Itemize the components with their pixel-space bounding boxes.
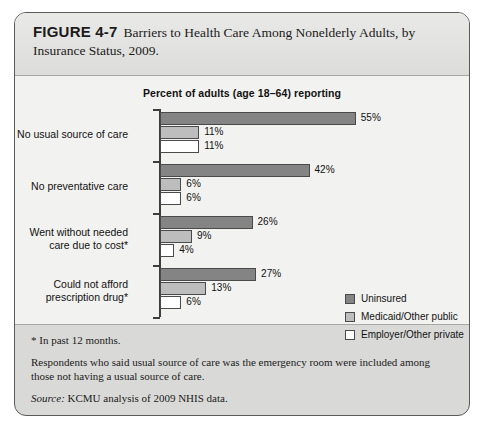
bar-value-label: 26%	[258, 216, 278, 227]
bar	[160, 178, 181, 191]
note-source: Source: KCMU analysis of 2009 NHIS data.	[31, 391, 453, 405]
legend-swatch-icon-uninsured	[345, 294, 355, 304]
category-label: Went without neededcare due to cost*	[14, 226, 128, 252]
figure-card: FIGURE 4-7Barriers to Health Care Among …	[14, 12, 470, 416]
bar-value-label: 9%	[197, 230, 211, 241]
category-label: Could not affordprescription drug*	[14, 278, 128, 304]
chart-title: Percent of adults (age 18–64) reporting	[15, 87, 469, 99]
legend-label-uninsured: Uninsured	[361, 293, 407, 304]
legend-item-uninsured: Uninsured	[345, 293, 464, 304]
chart-panel: Percent of adults (age 18–64) reporting …	[15, 75, 469, 325]
plot-area: No usual source of care55%11%11%No preve…	[15, 107, 469, 324]
figure-caption: FIGURE 4-7Barriers to Health Care Among …	[33, 23, 451, 60]
bar-value-label: 4%	[179, 244, 193, 255]
legend-swatch-icon-medicaid-other-public	[345, 312, 355, 322]
bar	[160, 192, 181, 205]
axis-tick	[153, 213, 160, 215]
category-label: No usual source of care	[14, 128, 128, 141]
bar-group: No preventative care42%6%6%	[15, 161, 469, 213]
legend-label-medicaid-other-public: Medicaid/Other public	[361, 311, 458, 322]
bar-value-label: 42%	[315, 164, 335, 175]
bar	[160, 230, 192, 243]
bar-value-label: 6%	[186, 296, 200, 307]
figure-number: FIGURE 4-7	[33, 23, 118, 40]
bar-value-label: 13%	[211, 282, 231, 293]
axis-tick	[153, 109, 160, 111]
note-footnote: * In past 12 months.	[31, 333, 453, 347]
bar-value-label: 27%	[261, 268, 281, 279]
bar-value-label: 11%	[204, 126, 223, 137]
bar-value-label: 6%	[186, 192, 200, 203]
bar	[160, 282, 206, 295]
bar	[160, 126, 199, 139]
note-source-text: KCMU analysis of 2009 NHIS data.	[68, 392, 228, 404]
bar	[160, 112, 356, 125]
figure-header: FIGURE 4-7Barriers to Health Care Among …	[15, 13, 469, 75]
bar	[160, 268, 256, 281]
bar-value-label: 6%	[186, 178, 200, 189]
bar-group: Went without neededcare due to cost*26%9…	[15, 213, 469, 265]
axis-tick	[153, 317, 160, 319]
note-source-label: Source:	[31, 392, 65, 404]
bar-value-label: 11%	[204, 140, 223, 151]
axis-tick	[153, 161, 160, 163]
figure-notes: * In past 12 months. Respondents who sai…	[15, 324, 469, 415]
bar	[160, 140, 199, 153]
bar-group: No usual source of care55%11%11%	[15, 109, 469, 161]
bar	[160, 164, 310, 177]
legend-item-medicaid-other-public: Medicaid/Other public	[345, 311, 464, 322]
bar	[160, 244, 174, 257]
bar	[160, 216, 253, 229]
category-label: No preventative care	[14, 180, 128, 193]
bar-value-label: 55%	[361, 112, 381, 123]
note-methodology: Respondents who said usual source of car…	[31, 355, 453, 383]
axis-tick	[153, 265, 160, 267]
bar	[160, 296, 181, 309]
